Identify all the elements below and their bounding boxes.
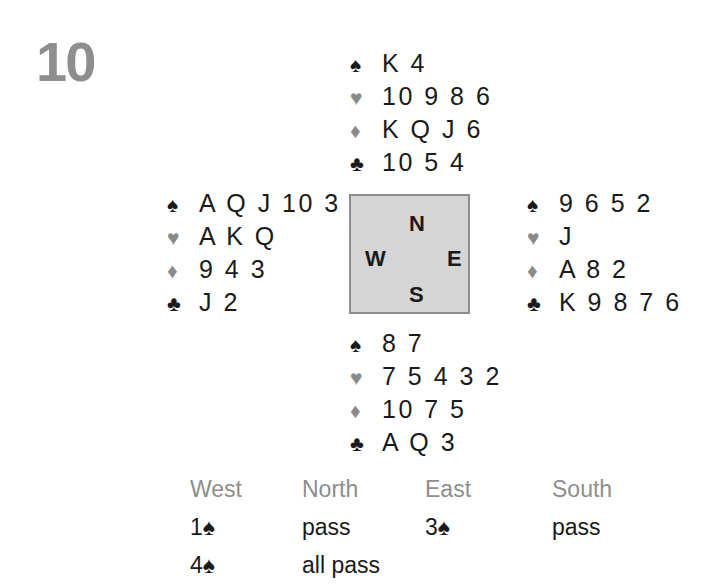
- hand-south-spades: 8 7: [382, 327, 424, 360]
- spade-icon: ♠: [350, 328, 382, 361]
- auction-row: 1♠ pass 3♠ pass: [0, 508, 713, 546]
- diamond-icon: ♦: [167, 254, 199, 287]
- hand-east-clubs: K 9 8 7 6: [559, 286, 682, 319]
- hand-west-clubs-row: ♣ J 2: [167, 286, 341, 319]
- hand-east-clubs-row: ♣ K 9 8 7 6: [527, 286, 682, 319]
- hand-east-diamonds-row: ♦ A 8 2: [527, 253, 682, 286]
- hand-south-clubs: A Q 3: [382, 426, 457, 459]
- compass-south-label: S: [409, 284, 424, 306]
- hand-north-diamonds: K Q J 6: [382, 113, 483, 146]
- heart-icon: ♥: [350, 361, 382, 394]
- hand-north-diamonds-row: ♦ K Q J 6: [350, 113, 492, 146]
- auction-header-south: South: [552, 470, 612, 508]
- auction-header-row: West North East South: [0, 470, 713, 508]
- hand-west-diamonds: 9 4 3: [199, 253, 267, 286]
- hand-west-spades-row: ♠ A Q J 10 3: [167, 187, 341, 220]
- hand-north-hearts-row: ♥ 10 9 8 6: [350, 80, 492, 113]
- hand-north-spades: K 4: [382, 47, 427, 80]
- hand-west-diamonds-row: ♦ 9 4 3: [167, 253, 341, 286]
- hand-south-diamonds-row: ♦ 10 7 5: [350, 393, 502, 426]
- hand-east-hearts-row: ♥ J: [527, 220, 682, 253]
- hand-south-clubs-row: ♣ A Q 3: [350, 426, 502, 459]
- compass-north-label: N: [409, 213, 425, 235]
- hand-south: ♠ 8 7 ♥ 7 5 4 3 2 ♦ 10 7 5 ♣ A Q 3: [350, 327, 502, 459]
- hand-west-clubs: J 2: [199, 286, 240, 319]
- club-icon: ♣: [167, 287, 199, 320]
- hand-north-spades-row: ♠ K 4: [350, 47, 492, 80]
- hand-west: ♠ A Q J 10 3 ♥ A K Q ♦ 9 4 3 ♣ J 2: [167, 187, 341, 319]
- auction-table: West North East South 1♠ pass 3♠ pass 4♠…: [0, 470, 713, 584]
- auction-header-east: East: [425, 470, 471, 508]
- hand-east-spades: 9 6 5 2: [559, 187, 653, 220]
- auction-bid-west-2: 4♠: [190, 546, 215, 584]
- hand-east-spades-row: ♠ 9 6 5 2: [527, 187, 682, 220]
- hand-north-clubs: 10 5 4: [382, 146, 467, 179]
- compass-box: N W E S: [349, 194, 470, 314]
- compass-east-label: E: [447, 248, 462, 270]
- hand-north: ♠ K 4 ♥ 10 9 8 6 ♦ K Q J 6 ♣ 10 5 4: [350, 47, 492, 179]
- hand-south-spades-row: ♠ 8 7: [350, 327, 502, 360]
- hand-west-hearts: A K Q: [199, 220, 277, 253]
- diamond-icon: ♦: [350, 114, 382, 147]
- heart-icon: ♥: [350, 81, 382, 114]
- spade-icon: ♠: [167, 188, 199, 221]
- hand-south-hearts-row: ♥ 7 5 4 3 2: [350, 360, 502, 393]
- club-icon: ♣: [350, 147, 382, 180]
- hand-east-hearts: J: [559, 220, 574, 253]
- bridge-deal-diagram: 10 ♠ K 4 ♥ 10 9 8 6 ♦ K Q J 6 ♣ 10 5 4 ♠…: [0, 0, 713, 586]
- spade-icon: ♠: [350, 48, 382, 81]
- hand-south-hearts: 7 5 4 3 2: [382, 360, 502, 393]
- auction-bid-east-1: 3♠: [425, 508, 450, 546]
- heart-icon: ♥: [167, 221, 199, 254]
- hand-east: ♠ 9 6 5 2 ♥ J ♦ A 8 2 ♣ K 9 8 7 6: [527, 187, 682, 319]
- hand-north-hearts: 10 9 8 6: [382, 80, 492, 113]
- hand-north-clubs-row: ♣ 10 5 4: [350, 146, 492, 179]
- auction-row: 4♠ all pass: [0, 546, 713, 584]
- hand-west-spades: A Q J 10 3: [199, 187, 341, 220]
- diamond-icon: ♦: [350, 394, 382, 427]
- auction-bid-south-1: pass: [552, 508, 601, 546]
- auction-header-west: West: [190, 470, 242, 508]
- auction-header-north: North: [302, 470, 358, 508]
- club-icon: ♣: [350, 427, 382, 460]
- deal-number: 10: [36, 34, 94, 90]
- auction-bid-west-1: 1♠: [190, 508, 215, 546]
- auction-bid-north-2: all pass: [302, 546, 380, 584]
- spade-icon: ♠: [527, 188, 559, 221]
- auction-bid-north-1: pass: [302, 508, 351, 546]
- diamond-icon: ♦: [527, 254, 559, 287]
- hand-east-diamonds: A 8 2: [559, 253, 629, 286]
- hand-west-hearts-row: ♥ A K Q: [167, 220, 341, 253]
- hand-south-diamonds: 10 7 5: [382, 393, 467, 426]
- club-icon: ♣: [527, 287, 559, 320]
- heart-icon: ♥: [527, 221, 559, 254]
- compass-west-label: W: [365, 248, 386, 270]
